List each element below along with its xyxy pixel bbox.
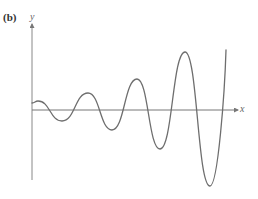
oscillation-plot — [0, 0, 258, 199]
growing-oscillation-curve — [32, 50, 226, 186]
